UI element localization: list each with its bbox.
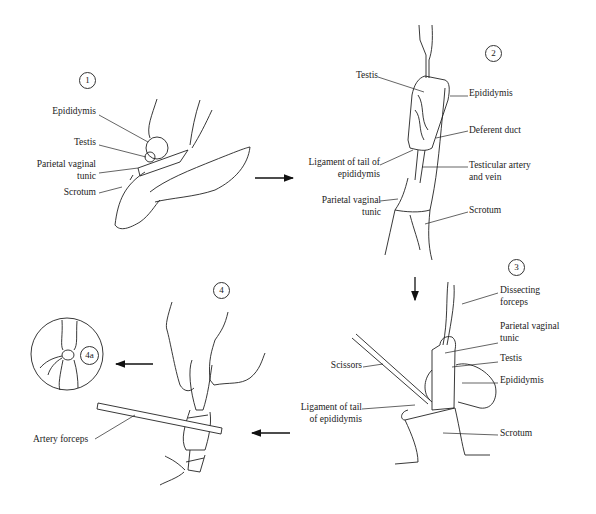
label-p3-epididymis: Epididymis — [500, 375, 544, 386]
label-p3-pvt-line1: Parietal vaginal — [500, 321, 559, 332]
label-p3-scissors: Scissors — [331, 360, 362, 371]
label-p1-pvt-line2: tunic — [77, 171, 96, 182]
leader-p3-forceps — [462, 293, 498, 304]
leader-p1-epididymis — [99, 115, 148, 142]
leader-p2-ligament — [380, 150, 413, 165]
label-p2-ligament-line2: epididymis — [338, 169, 380, 180]
leader-p3-scrotum — [443, 433, 498, 435]
step-badge-4: 4 — [213, 282, 230, 299]
label-p2-ligament-line1: Ligament of tail of — [309, 157, 381, 168]
leader-p2-testis — [378, 77, 424, 92]
leader-p2-scrotum — [425, 212, 468, 224]
label-p3-pvt-line2: tunic — [500, 333, 519, 344]
label-p3-ligament-line2: of epididymis — [309, 414, 362, 425]
label-p2-epididymis: Epididymis — [469, 88, 513, 99]
label-p4-artery-forceps: Artery forceps — [33, 434, 88, 445]
panel-1-drawing — [115, 99, 250, 229]
step-badge-4a: 4a — [80, 346, 99, 365]
step-badge-1: 1 — [79, 72, 96, 89]
label-p3-ligament-line1: Ligament of tail — [301, 402, 362, 413]
leader-p2-pvt — [380, 199, 398, 201]
step-badge-3: 3 — [508, 259, 525, 276]
label-p2-scrotum: Scrotum — [469, 205, 501, 216]
label-p1-testis: Testis — [74, 137, 96, 148]
step-badge-2: 2 — [485, 45, 502, 62]
label-p1-epididymis: Epididymis — [52, 106, 96, 117]
label-p1-scrotum: Scrotum — [64, 187, 96, 198]
leader-p1-scrotum — [99, 187, 122, 193]
label-p3-forceps-line1: Dissecting — [500, 285, 540, 296]
label-p1-pvt-line1: Parietal vaginal — [37, 159, 96, 170]
panel-2-drawing — [385, 25, 449, 260]
label-p2-deferent-duct: Deferent duct — [469, 125, 521, 136]
artery-forceps-instrument — [97, 403, 222, 434]
label-p3-forceps-line2: forceps — [500, 297, 528, 308]
label-p2-pvt-line2: tunic — [362, 207, 381, 218]
label-p3-scrotum: Scrotum — [500, 428, 532, 439]
label-p2-artery-line1: Testicular artery — [469, 160, 531, 171]
label-p3-testis: Testis — [500, 353, 522, 364]
leader-p3-pvt — [445, 343, 498, 353]
label-p2-pvt-line1: Parietal vaginal — [322, 195, 381, 206]
label-p2-artery-line2: and vein — [469, 172, 501, 183]
leader-p3-scissors — [363, 364, 383, 367]
label-p2-testis: Testis — [356, 70, 378, 81]
leader-p4-artery-forceps — [95, 415, 135, 439]
leader-p1-pvt — [99, 168, 138, 173]
panel-3-drawing — [352, 282, 496, 464]
panel-4-drawing — [160, 302, 265, 485]
leader-p3-ligament — [362, 405, 415, 409]
leader-p1-testis — [99, 145, 146, 157]
